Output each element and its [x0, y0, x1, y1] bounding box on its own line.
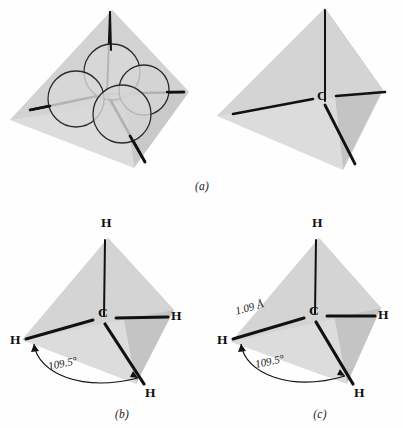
- carbon-label: C: [309, 304, 319, 318]
- panel-b-methane: C H H H H 109.5°: [4, 232, 196, 402]
- space-filling-tetrahedron-art: [4, 4, 194, 174]
- panel-a-space-filling: [4, 4, 194, 174]
- tetrahedron-with-carbon-art: [205, 4, 397, 174]
- hydrogen-left-label: H: [217, 333, 228, 347]
- caption-b: (b): [92, 408, 152, 420]
- hydrogen-bottom-label: H: [145, 386, 156, 400]
- carbon-label: C: [317, 89, 327, 103]
- panel-a-tetrahedron: C: [205, 4, 397, 174]
- hydrogen-left-label: H: [10, 333, 21, 347]
- sphere-front: [93, 85, 151, 143]
- methane-length-angle-art: [205, 232, 397, 402]
- carbon-label: C: [98, 306, 108, 320]
- caption-a: (a): [172, 180, 232, 192]
- hydrogen-top-label: H: [312, 216, 323, 230]
- hydrogen-right-label: H: [378, 308, 389, 322]
- hydrogen-right-label: H: [171, 309, 182, 323]
- hydrogen-top-label: H: [101, 216, 112, 230]
- figure-tetrahedral-methane: C (a) C H H H H 109.5° (b): [0, 0, 403, 428]
- caption-c: (c): [290, 408, 350, 420]
- hydrogen-bottom-label: H: [354, 386, 365, 400]
- panel-c-methane: C H H H H 1.09 Å 109.5°: [205, 232, 397, 402]
